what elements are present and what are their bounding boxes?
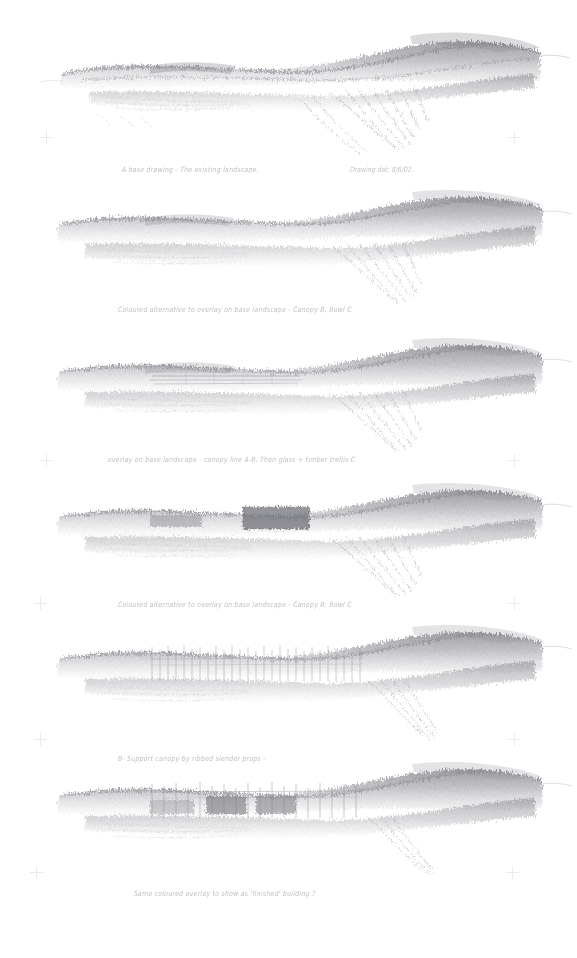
registration-cross xyxy=(34,597,47,610)
panel-caption-3: overlay on base landscape - canopy line … xyxy=(107,455,356,463)
drawing-sheet: A base drawing - The existing landscape.… xyxy=(0,0,577,958)
registration-cross xyxy=(40,131,53,144)
panel-3: overlay on base landscape - canopy line … xyxy=(0,338,577,478)
registration-cross xyxy=(34,733,47,746)
registration-cross xyxy=(40,454,53,467)
registration-cross xyxy=(506,866,519,879)
registration-cross xyxy=(508,131,521,144)
registration-cross xyxy=(508,454,521,467)
sketch-artwork-5 xyxy=(0,625,577,765)
panel-2: Coloured alternative to overlay on base … xyxy=(0,188,577,328)
panel-caption-date-1: Drawing dat: 8/6/02. xyxy=(349,165,414,173)
panel-6: Same coloured overlay to show as 'finish… xyxy=(0,762,577,902)
panel-4: Coloured alternative to overlay on base … xyxy=(0,483,577,623)
registration-cross xyxy=(508,597,521,610)
sketch-artwork-6 xyxy=(0,762,577,902)
registration-cross xyxy=(30,866,43,879)
panel-caption-4: Coloured alternative to overlay on base … xyxy=(117,600,353,608)
panel-1: A base drawing - The existing landscape.… xyxy=(0,18,577,168)
panel-5: B- Support canopy by ribbed slender prop… xyxy=(0,625,577,765)
sketch-artwork-1 xyxy=(0,18,577,168)
registration-cross xyxy=(508,733,521,746)
panel-caption-2: Coloured alternative to overlay on base … xyxy=(117,305,353,313)
panel-caption-1: A base drawing - The existing landscape. xyxy=(121,165,260,173)
panel-caption-6: Same coloured overlay to show as 'finish… xyxy=(133,889,316,897)
